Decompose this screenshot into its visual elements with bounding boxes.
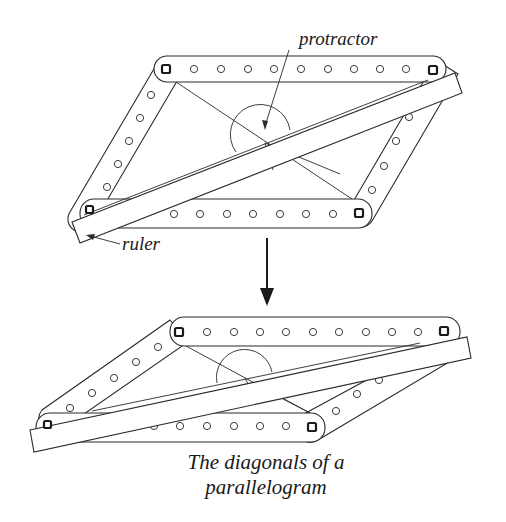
pivot-bolt [175,328,183,336]
bottom-linkage [30,317,471,452]
ruler-label: ruler [122,233,161,254]
caption-line-2: parallelogram [203,475,326,499]
pivot-bolt [440,327,448,335]
bottom-upper-bar [170,317,460,346]
pivot-bolt [429,66,437,74]
pivot-bolt [162,65,170,73]
ruler-pointer [90,236,120,244]
pivot-bolt [355,209,363,217]
protractor-label: protractor [297,28,378,49]
top-upper-bar [154,56,446,82]
top-linkage: protractor ruler [68,28,462,254]
pivot-bolt [308,423,316,431]
pointer-arrowhead-icon [262,120,268,130]
diagram-canvas: protractor ruler [0,0,506,522]
down-arrow-icon [260,238,274,306]
caption-line-1: The diagonals of a [188,450,345,474]
